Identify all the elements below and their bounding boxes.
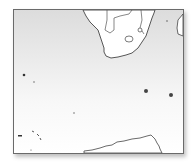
crozet-islands [169, 93, 173, 97]
island-west-2 [33, 81, 34, 82]
island-center [73, 112, 74, 113]
island-west-1 [23, 74, 26, 77]
small-island-east [166, 20, 167, 21]
madagascar-edge [177, 14, 183, 36]
southwest-island-a [18, 135, 22, 137]
prince-edward-islands [144, 89, 148, 93]
antarctica-coast [84, 135, 162, 153]
southern-africa-landmass [83, 10, 155, 58]
southwest-island-b [30, 149, 31, 150]
map-frame [13, 9, 184, 154]
map-canvas [14, 10, 183, 153]
lesotho-outline [125, 36, 133, 42]
eswatini-outline [138, 28, 142, 32]
southwest-island-chain [32, 131, 41, 140]
